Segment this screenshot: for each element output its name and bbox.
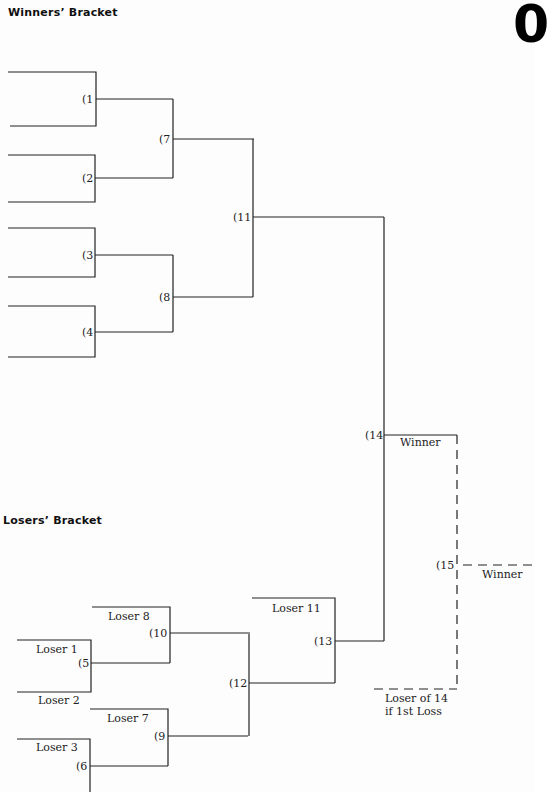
game-11-lines [253, 139, 384, 297]
game-1-label: (1 [82, 94, 93, 105]
game-15-label: (15 [436, 560, 454, 571]
final-winner-label: Winner [482, 569, 523, 580]
game-14-lines [384, 217, 457, 641]
game-6-label: (6 [76, 761, 87, 772]
game-8-label: (8 [159, 292, 170, 303]
game-7-lines [173, 99, 254, 178]
game-14-label: (14 [365, 430, 383, 441]
loser-2-entry: Loser 2 [38, 695, 80, 706]
game-12-label: (12 [229, 678, 247, 689]
game-9-label: (9 [154, 731, 165, 742]
game-5-label: (5 [78, 658, 89, 669]
game-3-label: (3 [82, 250, 93, 261]
if-first-loss-label: if 1st Loss [385, 706, 442, 717]
game-2-label: (2 [82, 173, 93, 184]
game-13-label: (13 [314, 636, 332, 647]
loser-11-entry: Loser 11 [272, 603, 321, 614]
game-7-label: (7 [159, 134, 170, 145]
loser-7-entry: Loser 7 [107, 713, 149, 724]
game-4-label: (4 [82, 327, 93, 338]
game-15-lines [374, 435, 535, 689]
game-8-lines [173, 255, 253, 332]
game-14-winner-label: Winner [400, 437, 441, 448]
game-11-label: (11 [233, 212, 251, 223]
loser-8-entry: Loser 8 [108, 611, 150, 622]
loser-3-entry: Loser 3 [36, 742, 78, 753]
game-12-lines [249, 634, 335, 736]
loser-1-entry: Loser 1 [36, 644, 78, 655]
loser-of-14-label: Loser of 14 [385, 693, 448, 704]
game-10-label: (10 [149, 628, 167, 639]
